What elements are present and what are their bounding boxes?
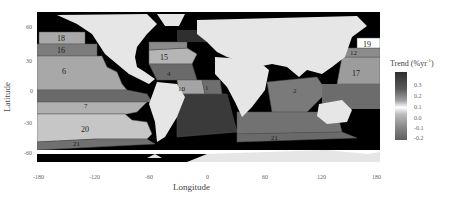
legend-tick: 0.2 <box>414 93 422 99</box>
y-tick: 0 <box>30 88 33 94</box>
world-map: 18 16 6 7 20 21 15 4 10 1 2 21 17 12 19 <box>37 12 380 162</box>
x-tick: 180 <box>372 174 381 180</box>
svg-text:16: 16 <box>57 46 65 55</box>
region-12 <box>342 48 380 57</box>
color-legend: Trend (%yr-1) 0.3 0.2 0.1 0.0 -0.1 -0.2 <box>390 58 455 148</box>
y-tick: 30 <box>26 58 32 64</box>
svg-text:20: 20 <box>81 125 89 134</box>
svg-text:1: 1 <box>205 84 209 92</box>
svg-text:15: 15 <box>160 53 168 62</box>
y-tick: -60 <box>24 150 32 156</box>
region-7 <box>37 102 147 114</box>
x-tick: 60 <box>262 174 268 180</box>
svg-text:4: 4 <box>167 70 171 78</box>
region-south-atlantic <box>177 94 237 137</box>
x-axis-label: Longitude <box>173 182 210 192</box>
x-tick: -120 <box>89 174 100 180</box>
svg-text:2: 2 <box>293 87 297 95</box>
legend-title: Trend (%yr-1) <box>390 58 434 68</box>
svg-text:17: 17 <box>352 69 360 78</box>
x-tick: 120 <box>317 174 326 180</box>
svg-text:7: 7 <box>84 102 88 110</box>
y-axis-label: Latitude <box>2 82 12 112</box>
legend-tick: -0.1 <box>414 125 424 131</box>
legend-tick: 0.0 <box>414 115 422 121</box>
trend-map-figure: 18 16 6 7 20 21 15 4 10 1 2 21 17 12 19 … <box>0 0 455 201</box>
region-4 <box>149 64 197 80</box>
x-tick: -180 <box>33 174 44 180</box>
x-tick: 0 <box>206 174 209 180</box>
region-16 <box>37 44 97 56</box>
legend-tick: -0.2 <box>414 135 424 141</box>
svg-text:21: 21 <box>73 140 81 148</box>
legend-tick: 0.1 <box>414 104 422 110</box>
svg-text:19: 19 <box>363 40 371 49</box>
region-15 <box>149 48 197 64</box>
svg-text:6: 6 <box>62 67 66 76</box>
svg-text:10: 10 <box>178 85 186 93</box>
x-tick: -60 <box>145 174 153 180</box>
legend-tick: 0.3 <box>414 82 422 88</box>
y-tick: 60 <box>26 24 32 30</box>
y-tick: -30 <box>24 120 32 126</box>
svg-text:18: 18 <box>57 34 65 43</box>
region-5 <box>37 90 152 102</box>
svg-text:21: 21 <box>271 134 279 142</box>
svg-text:12: 12 <box>350 49 358 57</box>
legend-colorbar <box>395 72 407 140</box>
